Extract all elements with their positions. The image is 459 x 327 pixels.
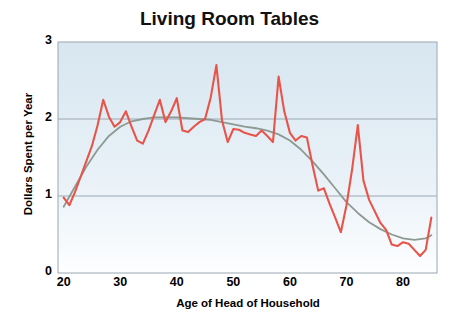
- plot-background: [58, 42, 437, 273]
- chart-container: Living Room Tables Dollars Spent per Yea…: [0, 0, 459, 327]
- x-axis-label: Age of Head of Household: [58, 297, 438, 309]
- plot-svg: [0, 0, 459, 327]
